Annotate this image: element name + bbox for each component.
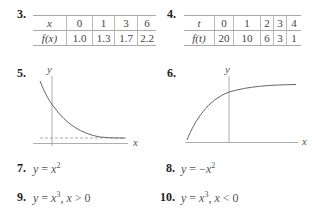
equals: = (186, 191, 199, 205)
problem-10-number: 10. (160, 190, 175, 205)
problem-10-equation: y = x3, x < 0 (181, 190, 239, 206)
condition: < 0 (220, 191, 239, 205)
condition: > 0 (72, 191, 91, 205)
problem-6-y-label: y (225, 63, 230, 75)
problem-8-equation: y = −x2 (181, 161, 215, 177)
problem-6-graph (0, 0, 312, 150)
problem-6-x-label: x (302, 135, 307, 147)
equals: = − (186, 162, 206, 176)
equals: = (38, 191, 51, 205)
exponent: 2 (56, 161, 60, 170)
growth-curve (187, 85, 296, 141)
problem-8-number: 8. (166, 161, 175, 176)
problem-9-equation: y = x3, x > 0 (33, 190, 91, 206)
equals: = (38, 162, 51, 176)
exponent: 2 (211, 161, 215, 170)
problem-9-number: 9. (17, 190, 26, 205)
problem-7-equation: y = x2 (33, 161, 60, 177)
problem-7-number: 7. (17, 161, 26, 176)
